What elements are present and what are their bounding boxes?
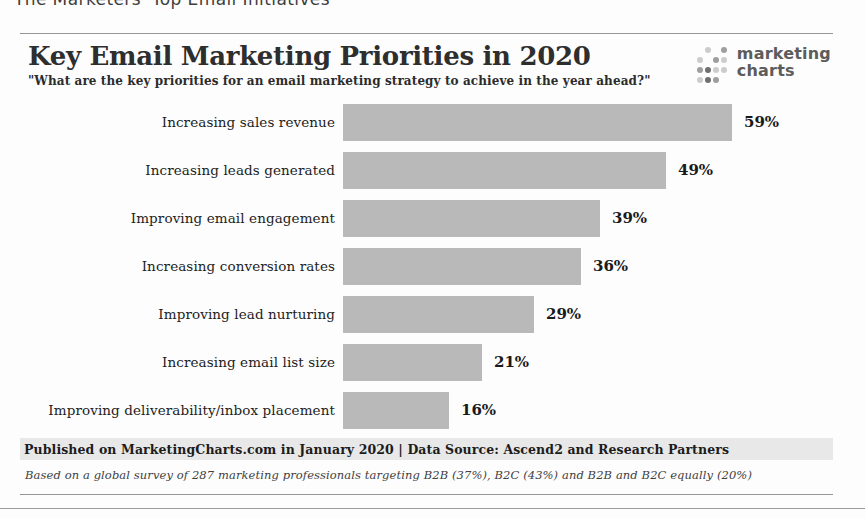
bar-value: 29% xyxy=(546,305,581,323)
bar-row: Increasing conversion rates 36% xyxy=(20,242,833,290)
logo-dots-icon xyxy=(697,47,729,87)
bar-row: Improving lead nurturing 29% xyxy=(20,290,833,338)
bar-value: 39% xyxy=(612,209,647,227)
bar-rows: Increasing sales revenue 59% Increasing … xyxy=(20,98,833,434)
published-line: Published on MarketingCharts.com in Janu… xyxy=(20,442,729,457)
bar-value: 49% xyxy=(678,161,713,179)
clipped-page-heading: The Marketers' Top Email Initiatives xyxy=(14,0,574,11)
bar-row: Improving email engagement 39% xyxy=(20,194,833,242)
bar-value: 36% xyxy=(593,257,628,275)
clipped-page-heading-text: The Marketers' Top Email Initiatives xyxy=(14,0,574,9)
bar xyxy=(343,200,600,237)
survey-footnote: Based on a global survey of 287 marketin… xyxy=(25,468,752,482)
chart-subtitle: "What are the key priorities for an emai… xyxy=(28,74,650,88)
logo-line-2: charts xyxy=(737,62,831,79)
bar-chart: Increasing sales revenue 59% Increasing … xyxy=(20,98,833,434)
footer-band: Published on MarketingCharts.com in Janu… xyxy=(20,438,833,460)
bar-value: 21% xyxy=(494,353,529,371)
bar xyxy=(343,392,449,429)
bar-label: Increasing email list size xyxy=(20,354,343,370)
chart-card: Key Email Marketing Priorities in 2020 "… xyxy=(20,33,833,495)
logo-wordmark: marketing charts xyxy=(737,45,831,79)
bar xyxy=(343,296,534,333)
bar xyxy=(343,152,666,189)
chart-title: Key Email Marketing Priorities in 2020 xyxy=(28,41,650,71)
chart-titles: Key Email Marketing Priorities in 2020 "… xyxy=(28,41,650,88)
bar-row: Increasing email list size 21% xyxy=(20,338,833,386)
marketingcharts-logo: marketing charts xyxy=(697,41,831,87)
bar-row: Increasing leads generated 49% xyxy=(20,146,833,194)
bar-label: Increasing leads generated xyxy=(20,162,343,178)
bar-value: 59% xyxy=(744,113,779,131)
chart-header: Key Email Marketing Priorities in 2020 "… xyxy=(28,41,831,88)
bar-label: Increasing conversion rates xyxy=(20,258,343,274)
bar xyxy=(343,248,581,285)
bar-label: Improving deliverability/inbox placement xyxy=(20,402,343,418)
bar-row: Improving deliverability/inbox placement… xyxy=(20,386,833,434)
bar-label: Increasing sales revenue xyxy=(20,114,343,130)
bar xyxy=(343,104,732,141)
bar-value: 16% xyxy=(461,401,496,419)
bar-row: Increasing sales revenue 59% xyxy=(20,98,833,146)
bar-label: Improving email engagement xyxy=(20,210,343,226)
bottom-rule xyxy=(0,508,865,509)
infographic-page: The Marketers' Top Email Initiatives Key… xyxy=(0,0,865,519)
bar-label: Improving lead nurturing xyxy=(20,306,343,322)
bar xyxy=(343,344,482,381)
logo-line-1: marketing xyxy=(737,45,831,62)
